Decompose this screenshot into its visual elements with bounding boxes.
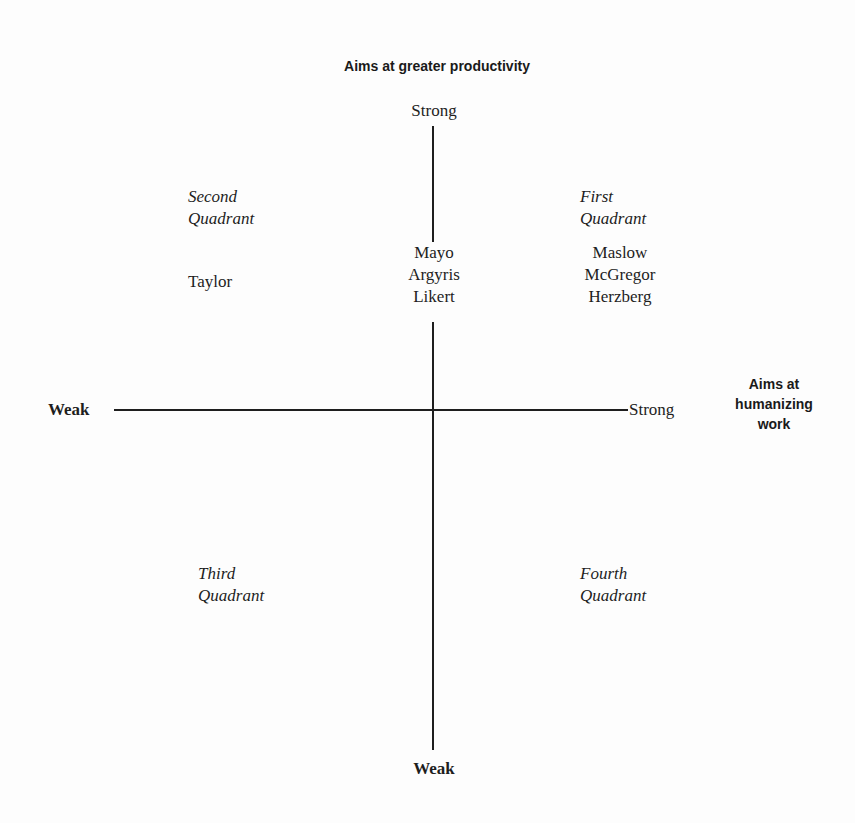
center-member: Argyris <box>408 264 460 286</box>
third-quadrant-label: Third Quadrant <box>198 563 264 607</box>
quadrant-name-line: First <box>580 186 646 208</box>
horizontal-axis-title: Aims at humanizing work <box>735 374 813 434</box>
horizontal-axis-title-line: work <box>735 414 813 434</box>
first-quadrant-member: Maslow <box>585 242 656 264</box>
vertical-axis-line-lower <box>432 322 434 750</box>
quadrant-name-line: Quadrant <box>198 585 264 607</box>
horizontal-axis-weak-label: Weak <box>48 401 90 418</box>
quadrant-name-line: Quadrant <box>188 208 254 230</box>
fourth-quadrant-label: Fourth Quadrant <box>580 563 646 607</box>
center-members: Mayo Argyris Likert <box>408 242 460 308</box>
horizontal-axis-line <box>114 409 628 411</box>
horizontal-axis-title-line: humanizing <box>735 394 813 414</box>
second-quadrant-label: Second Quadrant <box>188 186 254 230</box>
horizontal-axis-strong-label: Strong <box>629 401 674 418</box>
first-quadrant-members: Maslow McGregor Herzberg <box>585 242 656 308</box>
vertical-axis-weak-label: Weak <box>413 760 455 777</box>
quadrant-diagram: Aims at greater productivity Strong Mayo… <box>0 0 855 823</box>
quadrant-name-line: Fourth <box>580 563 646 585</box>
horizontal-axis-title-line: Aims at <box>735 374 813 394</box>
second-quadrant-member: Taylor <box>188 273 232 290</box>
quadrant-name-line: Third <box>198 563 264 585</box>
vertical-axis-line-upper <box>432 126 434 242</box>
first-quadrant-member: McGregor <box>585 264 656 286</box>
vertical-axis-title: Aims at greater productivity <box>344 59 530 73</box>
first-quadrant-label: First Quadrant <box>580 186 646 230</box>
quadrant-name-line: Quadrant <box>580 208 646 230</box>
center-member: Likert <box>408 286 460 308</box>
first-quadrant-member: Herzberg <box>585 286 656 308</box>
quadrant-name-line: Quadrant <box>580 585 646 607</box>
vertical-axis-strong-label: Strong <box>411 102 456 119</box>
center-member: Mayo <box>408 242 460 264</box>
quadrant-name-line: Second <box>188 186 254 208</box>
